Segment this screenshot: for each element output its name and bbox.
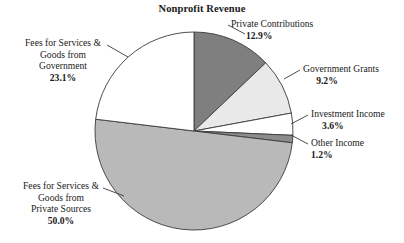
slice-label-government-grants: Government Grants 9.2% [303,63,379,86]
slice-label-fees-government: Fees for Services & Goods from Governmen… [8,37,118,83]
pie-slice-group [95,32,293,230]
slice-label-text-line1: Fees for Services & [25,37,101,48]
slice-label-other-income: Other Income 1.2% [311,137,375,160]
slice-label-text-line2: Goods from [38,192,84,203]
slice-label-text-line2: Goods from [40,49,86,60]
slice-label-text: Government Grants [303,63,379,74]
leader-line-investment-income [291,115,308,124]
slice-label-text: Private Contributions [231,18,313,29]
slice-label-text-line3: Private Sources [31,203,91,214]
slice-label-text: Investment Income [311,108,385,119]
leader-line-other-income [291,135,308,144]
slice-label-text-line3: Government [39,60,87,71]
slice-label-fees-private: Fees for Services & Goods from Private S… [5,180,117,226]
slice-percent: 12.9% [231,30,313,42]
slice-percent: 1.2% [311,149,375,161]
slice-percent: 50.0% [5,215,117,227]
slice-label-text-line1: Fees for Services & [23,180,99,191]
slice-percent: 3.6% [311,120,385,132]
slice-label-investment-income: Investment Income 3.6% [311,108,385,131]
slice-label-text: Other Income [311,137,364,148]
chart-page: Nonprofit Revenue Private Contributions … [0,0,404,243]
slice-percent: 9.2% [303,75,379,87]
slice-label-private-contributions: Private Contributions 12.9% [231,18,313,41]
slice-percent: 23.1% [8,72,118,84]
leader-line-government-grants [284,70,300,79]
